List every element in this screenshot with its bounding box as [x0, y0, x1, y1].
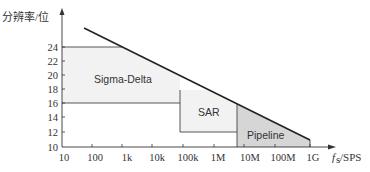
x-tick-100k: 100k [178, 152, 200, 163]
x-tick-1M: 1M [211, 152, 226, 163]
x-tick-1k: 1k [122, 152, 133, 163]
y-axis-arrow-icon [60, 8, 65, 15]
x-tick-1G: 1G [307, 152, 320, 163]
x-tick-100: 100 [87, 152, 103, 163]
y-tick-24: 24 [48, 42, 59, 53]
y-tick-10: 10 [48, 142, 59, 153]
y-tick-14: 14 [48, 112, 59, 123]
x-tick-10M: 10M [240, 152, 261, 163]
x-axis-label-unit: /SPS [340, 151, 361, 163]
y-tick-16: 16 [48, 98, 59, 109]
adc-resolution-chart: 24 22 20 18 16 14 12 10 10 100 1k 10k 10… [0, 0, 370, 172]
y-axis-label: 分辨率/位 [2, 10, 49, 23]
y-tick-20: 20 [48, 70, 59, 81]
x-axis-arrow-icon [328, 145, 336, 150]
sar-label: SAR [198, 106, 220, 118]
y-tick-12: 12 [48, 127, 59, 138]
x-tick-10: 10 [59, 152, 70, 163]
x-tick-100M: 100M [270, 152, 296, 163]
x-tick-10k: 10k [149, 152, 166, 163]
y-tick-22: 22 [48, 56, 59, 67]
sigma-delta-label: Sigma-Delta [94, 73, 152, 85]
y-tick-18: 18 [48, 84, 59, 95]
pipeline-label: Pipeline [247, 129, 285, 141]
